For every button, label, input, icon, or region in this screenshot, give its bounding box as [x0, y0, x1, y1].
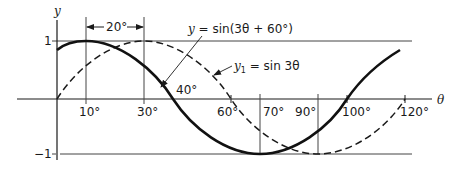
figure: 20° y θ 1 −1 10° 30° 60° 70° 90° 100° 12…: [0, 0, 458, 175]
y-tick-neg1: −1: [34, 147, 52, 161]
leader-curve2: [214, 66, 232, 75]
x-axis-label: θ: [437, 93, 445, 107]
curve2-label: y1 = sin 3θ: [233, 59, 300, 75]
curve-sin3theta-plus-60: [57, 41, 400, 154]
y-axis-label: y: [53, 4, 61, 18]
y-tick-1: 1: [44, 34, 52, 48]
dimension-label: 20°: [106, 20, 127, 34]
sine-chart: 20° y θ 1 −1 10° 30° 60° 70° 90° 100° 12…: [0, 0, 458, 175]
x-tick-60: 60°: [217, 105, 238, 119]
x-tick-30: 30°: [137, 105, 158, 119]
x-tick-100: 100°: [342, 105, 371, 119]
x-tick-90: 90°: [295, 105, 316, 119]
curve1-label: y = sin(3θ + 60°): [187, 22, 293, 36]
point-label-40: 40°: [176, 83, 197, 97]
x-tick-70: 70°: [263, 105, 284, 119]
x-tick-120: 120°: [400, 105, 429, 119]
x-tick-10: 10°: [79, 105, 100, 119]
